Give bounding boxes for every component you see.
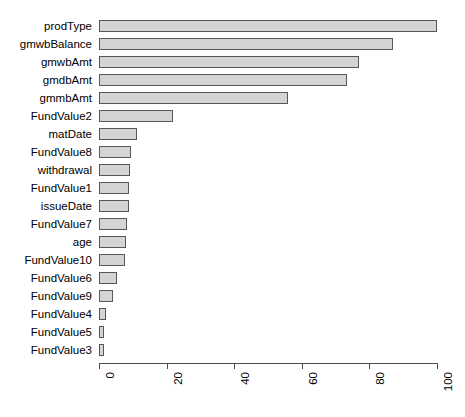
bar: [99, 272, 117, 284]
bar: [99, 56, 359, 68]
category-label: FundValue1: [31, 180, 92, 196]
category-label: gmmbAmt: [40, 90, 92, 106]
category-label: FundValue9: [31, 288, 92, 304]
category-label: gmwbAmt: [41, 54, 92, 70]
x-axis-tick: [99, 363, 100, 369]
bar-row: gmdbAmt: [99, 72, 437, 90]
x-axis-tick: [234, 363, 235, 369]
bar-row: FundValue4: [99, 306, 437, 324]
bar-row: age: [99, 234, 437, 252]
x-axis-tick-label: 0: [104, 372, 116, 378]
bar: [99, 236, 126, 248]
category-label: FundValue2: [31, 108, 92, 124]
x-axis-tick: [302, 363, 303, 369]
x-axis-tick: [437, 363, 438, 369]
bar: [99, 344, 104, 356]
bar: [99, 218, 127, 230]
bar-row: gmwbAmt: [99, 54, 437, 72]
category-label: FundValue8: [31, 144, 92, 160]
category-label: gmdbAmt: [43, 72, 92, 88]
bar-row: FundValue6: [99, 270, 437, 288]
bar: [99, 182, 129, 194]
bar-row: FundValue10: [99, 252, 437, 270]
bar-row: FundValue7: [99, 216, 437, 234]
category-label: gmwbBalance: [20, 36, 92, 52]
x-axis-tick: [167, 363, 168, 369]
bar-row: matDate: [99, 126, 437, 144]
category-label: issueDate: [41, 198, 92, 214]
category-label: FundValue4: [31, 306, 92, 322]
bar-row: FundValue2: [99, 108, 437, 126]
bar-row: gmmbAmt: [99, 90, 437, 108]
bar: [99, 38, 393, 50]
category-label: prodType: [44, 18, 92, 34]
plot-area: prodTypegmwbBalancegmwbAmtgmdbAmtgmmbAmt…: [99, 18, 437, 358]
bar: [99, 308, 106, 320]
bar-row: prodType: [99, 18, 437, 36]
bar: [99, 164, 130, 176]
bar-row: FundValue3: [99, 342, 437, 360]
bar: [99, 326, 104, 338]
bar-row: FundValue1: [99, 180, 437, 198]
x-axis-tick-label: 40: [239, 372, 251, 385]
bar: [99, 254, 125, 266]
category-label: FundValue6: [31, 270, 92, 286]
bar: [99, 200, 129, 212]
bar-row: gmwbBalance: [99, 36, 437, 54]
bar-row: issueDate: [99, 198, 437, 216]
x-axis-tick-label: 80: [374, 372, 386, 385]
category-label: age: [73, 234, 92, 250]
category-label: matDate: [49, 126, 92, 142]
category-label: FundValue5: [31, 324, 92, 340]
bar: [99, 74, 347, 86]
bar-row: FundValue9: [99, 288, 437, 306]
bar-row: FundValue8: [99, 144, 437, 162]
category-label: withdrawal: [38, 162, 92, 178]
x-axis-tick-label: 60: [307, 372, 319, 385]
x-axis-tick: [369, 363, 370, 369]
bar-chart: prodTypegmwbBalancegmwbAmtgmdbAmtgmmbAmt…: [0, 0, 465, 417]
bar-row: FundValue5: [99, 324, 437, 342]
bar: [99, 110, 173, 122]
category-label: FundValue10: [24, 252, 92, 268]
x-axis-tick-label: 20: [172, 372, 184, 385]
bar-row: withdrawal: [99, 162, 437, 180]
x-axis-line: [99, 363, 437, 364]
bar: [99, 92, 288, 104]
bar: [99, 146, 131, 158]
bar: [99, 20, 437, 32]
bar: [99, 128, 137, 140]
category-label: FundValue7: [31, 216, 92, 232]
x-axis-tick-label: 100: [442, 372, 454, 391]
bar: [99, 290, 113, 302]
category-label: FundValue3: [31, 342, 92, 358]
